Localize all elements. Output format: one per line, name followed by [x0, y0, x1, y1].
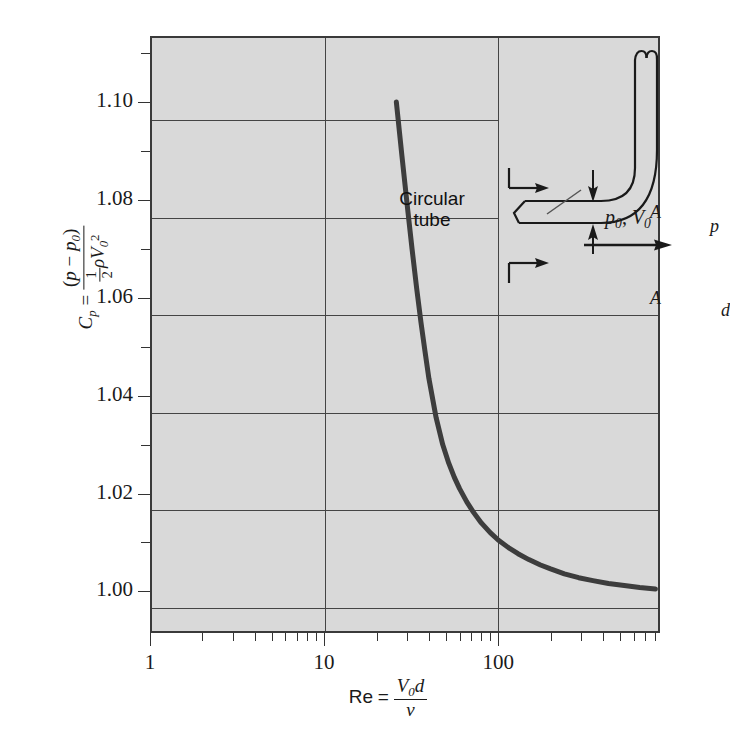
inset-label-diameter: d — [721, 300, 730, 321]
x-axis-equals: = — [378, 686, 389, 707]
x-tick-minor-40 — [429, 633, 430, 641]
x-tick-minor-200 — [551, 633, 552, 641]
x-tick-minor-8 — [307, 633, 308, 641]
x-tick-minor-90 — [490, 633, 491, 641]
x-tick-minor-700 — [645, 633, 646, 641]
x-tick-minor-400 — [603, 633, 604, 641]
y-tick-label-1.04: 1.04 — [55, 382, 133, 407]
x-tick-minor-9 — [316, 633, 317, 641]
y-tick-minor-1.09 — [141, 151, 150, 152]
x-tick-minor-7 — [297, 633, 298, 641]
x-tick-label-100: 100 — [458, 650, 538, 675]
x-tick-major-1 — [150, 633, 151, 646]
x-tick-minor-2 — [202, 633, 203, 641]
x-tick-minor-5 — [272, 633, 273, 641]
x-axis-title: Re = V0d ν — [278, 676, 498, 721]
inset-label-section-bottom: A — [650, 288, 661, 309]
y-tick-label-1.08: 1.08 — [55, 186, 133, 211]
x-tick-major-10 — [324, 633, 325, 646]
y-tick-label-1.10: 1.10 — [55, 88, 133, 113]
tube-inner-bend — [601, 168, 635, 201]
inset-label-section-top: A — [650, 202, 661, 223]
y-axis-title: Cp = (p − p0) 12ρV02 — [60, 218, 115, 338]
x-tick-minor-50 — [446, 633, 447, 641]
y-axis-symbol: C — [75, 317, 96, 330]
plot-area: Circular tube p0, V0 — [150, 36, 660, 633]
tube-top-right-ear — [647, 51, 658, 60]
x-tick-label-1: 1 — [110, 650, 190, 675]
y-tick-major-1.04 — [138, 396, 150, 397]
y-axis-numerator: (p − p0) — [60, 226, 84, 290]
y-tick-major-1.06 — [138, 298, 150, 299]
y-tick-label-1.06: 1.06 — [55, 284, 133, 309]
inset-label-pressure: p — [710, 216, 719, 237]
y-tick-major-1.10 — [138, 102, 150, 103]
y-tick-label-1.00: 1.00 — [55, 577, 133, 602]
y-tick-minor-1.05 — [141, 347, 150, 348]
y-tick-major-1.02 — [138, 494, 150, 495]
y-axis-fraction: (p − p0) 12ρV02 — [60, 226, 115, 290]
y-tick-minor-1.11 — [141, 53, 150, 54]
x-tick-minor-3 — [233, 633, 234, 641]
x-axis-fraction: V0d ν — [394, 676, 428, 721]
x-tick-minor-4 — [255, 633, 256, 641]
x-tick-minor-60 — [460, 633, 461, 641]
section-top-arrowhead — [535, 183, 549, 193]
y-tick-minor-1.07 — [141, 249, 150, 250]
x-tick-minor-30 — [407, 633, 408, 641]
x-axis-denominator: ν — [394, 700, 428, 721]
y-tick-minor-1.01 — [141, 542, 150, 543]
x-tick-minor-80 — [481, 633, 482, 641]
y-tick-major-1.00 — [138, 591, 150, 592]
x-tick-minor-20 — [377, 633, 378, 641]
x-tick-minor-300 — [581, 633, 582, 641]
tube-top-left-ear — [635, 51, 647, 60]
x-axis-numerator: V0d — [394, 676, 428, 700]
x-tick-major-100 — [498, 633, 499, 646]
y-axis-symbol-sub: p — [84, 310, 99, 316]
tube-nose — [514, 201, 525, 223]
x-tick-minor-70 — [471, 633, 472, 641]
y-tick-label-1.02: 1.02 — [55, 480, 133, 505]
curve-annotation-line1: Circular — [399, 188, 464, 209]
x-tick-minor-6 — [285, 633, 286, 641]
curve-annotation-line2: tube — [414, 209, 451, 230]
y-tick-major-1.08 — [138, 200, 150, 201]
x-tick-minor-500 — [620, 633, 621, 641]
x-tick-minor-800 — [655, 633, 656, 641]
x-tick-label-10: 10 — [284, 650, 364, 675]
curve-annotation: Circular tube — [384, 188, 480, 231]
x-tick-minor-600 — [634, 633, 635, 641]
x-axis-symbol: Re — [349, 686, 373, 707]
tube-outer-bend — [601, 150, 657, 223]
y-tick-minor-1.03 — [141, 445, 150, 446]
section-bottom-arrowhead — [535, 258, 549, 268]
pitot-tube-diagram — [497, 38, 717, 308]
y-axis-denominator: 12ρV02 — [84, 226, 115, 290]
